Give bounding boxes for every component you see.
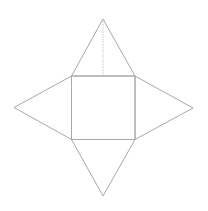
pyramid-net-diagram: [0, 0, 208, 211]
pyramid-net-svg: [0, 0, 208, 211]
base-square: [72, 76, 136, 140]
left-triangle-face: [14, 76, 72, 140]
right-triangle-face: [135, 76, 193, 140]
bottom-triangle-face: [72, 140, 136, 197]
